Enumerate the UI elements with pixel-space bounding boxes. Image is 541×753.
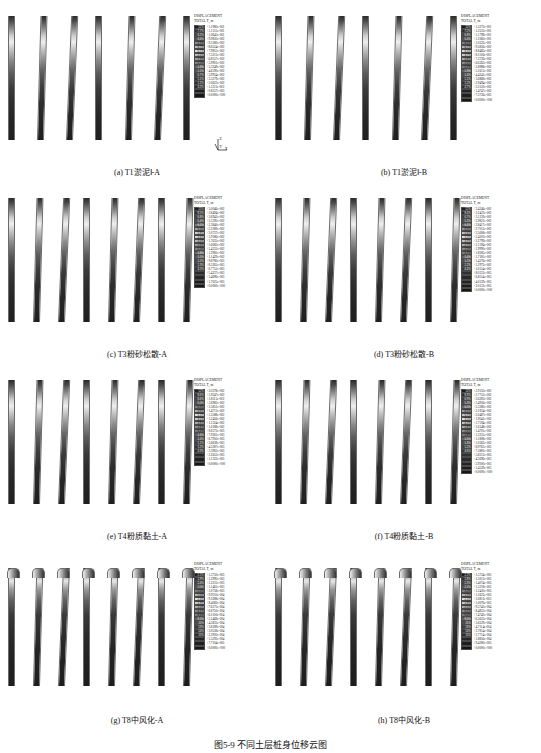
pile-shaft — [450, 380, 460, 504]
panel-caption-d: (d) T3粉砂松散-B — [275, 350, 533, 360]
pile-shaft — [58, 568, 70, 686]
pile-model — [8, 380, 13, 504]
pile-model — [275, 198, 280, 322]
legend-color-swatch — [194, 462, 205, 466]
legend-title-units: TOTAL T, m — [194, 383, 225, 388]
panel-caption-e: (e) T4粉质黏土-A — [8, 532, 266, 542]
legend: DISPLACEMENTTOTAL T, m12%+3.4246e-0028.4… — [461, 196, 492, 292]
legend-value-label: +0.0000e+000 — [474, 98, 493, 102]
pile-model — [350, 568, 355, 686]
pile-model — [425, 198, 430, 322]
pile-model — [375, 198, 380, 322]
legend-title-displacement: DISPLACEMENT — [194, 196, 225, 201]
pile-shaft — [300, 568, 310, 686]
legend-row: +0.0000e+000 — [461, 98, 492, 102]
pile-model — [83, 198, 88, 322]
pile-shaft — [375, 198, 385, 322]
legend-color-swatch — [194, 646, 205, 650]
pile-model — [58, 198, 63, 322]
legend-value-label: +0.0000e+000 — [207, 284, 226, 288]
pile-shaft — [37, 16, 47, 140]
pile-shaft — [425, 198, 432, 322]
pile-shaft — [450, 568, 460, 686]
pile-model — [133, 198, 138, 322]
legend-value-label: +0.0000e+000 — [207, 93, 226, 97]
pile-shaft — [158, 380, 165, 504]
pile-head-deflection — [424, 568, 437, 578]
pile-model — [400, 380, 405, 504]
legend-title-units: TOTAL T, m — [194, 201, 225, 206]
legend-value-label: +0.0000e+000 — [474, 646, 493, 650]
pile-head-deflection — [57, 568, 70, 578]
pile-model — [108, 568, 113, 686]
pile-shaft — [392, 16, 402, 140]
pile-model — [58, 568, 63, 686]
pile-model — [83, 380, 88, 504]
legend-title-displacement: DISPLACEMENT — [194, 562, 225, 567]
pile-model — [362, 16, 367, 140]
pile-shaft — [275, 568, 282, 686]
panel-caption-f: (f) T4粉质黏土-B — [275, 532, 533, 542]
pile-model — [375, 380, 380, 504]
legend-value-label: +0.0000e+000 — [474, 470, 493, 474]
pile-shaft — [375, 568, 385, 686]
panel-a: DISPLACEMENTTOTAL T, m12%+1.1980e-0017.7… — [8, 14, 266, 154]
pile-head-deflection — [157, 568, 170, 578]
pile-shaft — [154, 16, 166, 140]
pile-shaft — [66, 16, 78, 140]
pile-model — [108, 198, 113, 322]
model-viewport — [275, 562, 455, 702]
pile-model — [325, 198, 330, 322]
pile-shaft — [108, 380, 118, 504]
pile-shaft — [158, 568, 165, 686]
pile-shaft — [83, 568, 90, 686]
pile-model — [154, 16, 159, 140]
pile-shaft — [8, 380, 15, 504]
pile-shaft — [33, 198, 43, 322]
pile-head-deflection — [82, 568, 95, 578]
pile-model — [183, 568, 188, 686]
pile-model — [33, 380, 38, 504]
pile-model — [300, 380, 305, 504]
pile-shaft — [133, 380, 145, 504]
pile-model — [275, 568, 280, 686]
pile-shaft — [350, 198, 357, 322]
pile-model — [375, 568, 380, 686]
panel-caption-a: (a) T1淤泥Ⅰ-A — [8, 168, 266, 178]
legend-row: +0.0000e+000 — [461, 470, 492, 474]
pile-model — [421, 16, 426, 140]
pile-model — [304, 16, 309, 140]
panel-b: DISPLACEMENTTOTAL T, m11%+1.3272e-0017.2… — [275, 14, 533, 154]
pile-head-deflection — [7, 568, 20, 578]
pile-shaft — [8, 568, 15, 686]
panel-caption-b: (b) T1淤泥Ⅰ-B — [275, 168, 533, 178]
legend: DISPLACEMENTTOTAL T, m11%+1.3272e-0017.2… — [461, 14, 492, 102]
pile-shaft — [8, 16, 15, 140]
pile-shaft — [350, 380, 357, 504]
legend-scale: 11%+3.0046e-0028.5%+2.8494e-0026.8%+2.69… — [194, 207, 225, 288]
pile-model — [425, 380, 430, 504]
legend-title-units: TOTAL T, m — [461, 19, 492, 24]
pile-model — [450, 568, 455, 686]
pile-shaft — [333, 16, 345, 140]
pile-model — [183, 380, 188, 504]
pile-model — [400, 198, 405, 322]
pile-model — [8, 198, 13, 322]
pile-shaft — [58, 198, 70, 322]
legend-title-units: TOTAL T, m — [194, 567, 225, 572]
legend-title-displacement: DISPLACEMENT — [461, 14, 492, 19]
panel-caption-h: (h) T8中风化-B — [275, 716, 533, 726]
legend-title-displacement: DISPLACEMENT — [461, 196, 492, 201]
legend: DISPLACEMENTTOTAL T, m12%+2.0378e-0028.6… — [194, 378, 225, 466]
pile-model — [33, 198, 38, 322]
pile-model — [350, 198, 355, 322]
pile-model — [33, 568, 38, 686]
pile-model — [37, 16, 42, 140]
pile-head-deflection — [324, 568, 337, 578]
pile-model — [350, 380, 355, 504]
legend: DISPLACEMENTTOTAL T, m2.1%+1.3750e-0031.… — [194, 562, 225, 650]
legend-color-swatch — [194, 93, 205, 97]
panel-h: DISPLACEMENTTOTAL T, m2.2%+1.5734e-0031.… — [275, 562, 533, 702]
panel-caption-g: (g) T8中风化-A — [8, 716, 266, 726]
pile-shaft — [421, 16, 433, 140]
